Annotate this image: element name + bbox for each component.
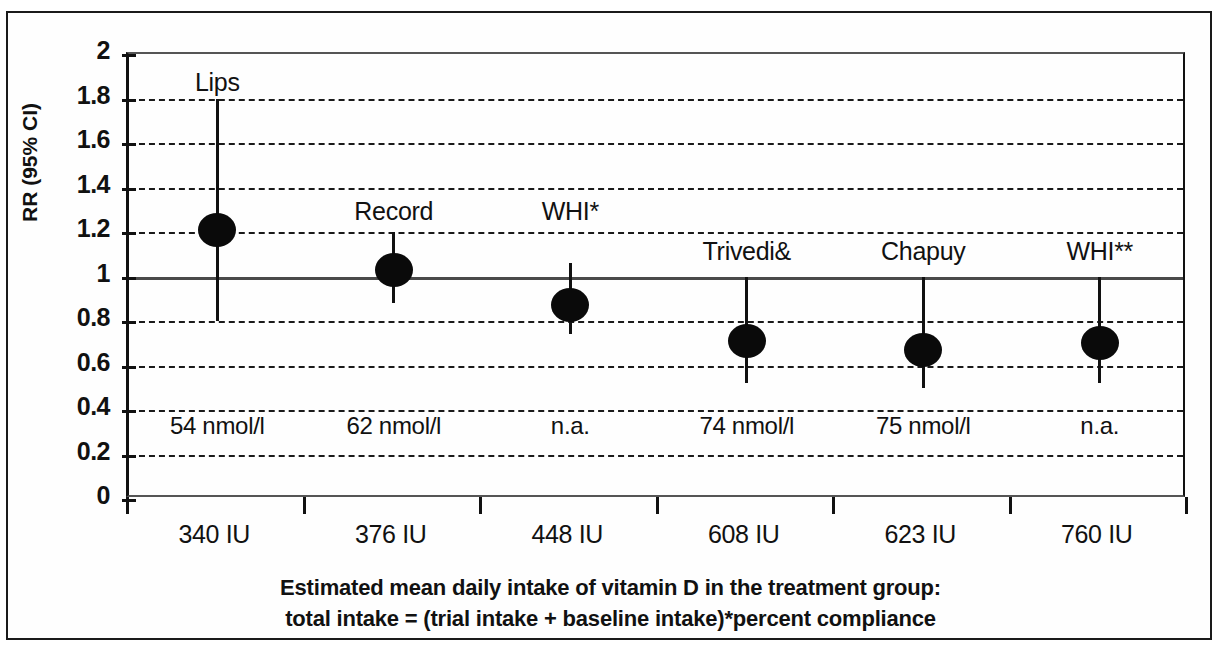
x-axis-tick-label: 340 IU: [179, 520, 250, 549]
plot-area: Lips54 nmol/lRecord62 nmol/lWHI*n.a.Triv…: [126, 52, 1185, 497]
x-axis-tick: [303, 497, 306, 514]
gridline: [129, 410, 1183, 412]
series-label: Chapuy: [881, 237, 965, 266]
y-axis-tick: [122, 455, 136, 458]
x-axis-tick-label: 448 IU: [532, 520, 603, 549]
x-axis-title-line-1: Estimated mean daily intake of vitamin D…: [0, 572, 1221, 603]
y-axis-tick: [122, 410, 136, 413]
gridline: [129, 143, 1183, 145]
y-axis-tick: [122, 54, 136, 57]
series-label: Trivedi&: [703, 237, 791, 266]
x-axis-tick-label: 608 IU: [708, 520, 779, 549]
series-note: 74 nmol/l: [699, 412, 794, 440]
y-axis-tick: [122, 321, 136, 324]
y-axis-tick: [122, 99, 136, 102]
x-axis-tick: [1009, 497, 1012, 514]
gridline: [129, 188, 1183, 190]
x-axis-tick-label: 376 IU: [355, 520, 426, 549]
data-point-marker: [904, 333, 942, 367]
x-axis-tick: [832, 497, 835, 514]
y-axis-tick-label: 0.2: [0, 437, 122, 466]
y-axis-tick-label: 1.4: [0, 170, 122, 199]
series-label: WHI**: [1066, 237, 1133, 266]
y-axis-tick-label: 1.2: [0, 214, 122, 243]
data-point-marker: [198, 213, 236, 247]
series-note: 54 nmol/l: [170, 412, 265, 440]
y-axis-tick: [122, 143, 136, 146]
x-axis-tick: [126, 497, 129, 514]
x-axis-tick-label: 760 IU: [1061, 520, 1132, 549]
series-note: n.a.: [551, 412, 590, 440]
x-axis-title-line-2: total intake = (trial intake + baseline …: [0, 603, 1221, 634]
x-axis-tick: [479, 497, 482, 514]
x-axis-tick: [656, 497, 659, 514]
y-axis-tick: [122, 499, 136, 502]
reference-line: [129, 277, 1183, 280]
gridline: [129, 232, 1183, 234]
x-axis-title: Estimated mean daily intake of vitamin D…: [0, 572, 1221, 634]
y-axis-tick-label: 0.8: [0, 303, 122, 332]
y-axis-tick: [122, 277, 136, 280]
y-axis-tick-label: 1.6: [0, 125, 122, 154]
series-label: Record: [354, 197, 433, 226]
data-point-marker: [551, 288, 589, 322]
data-point-marker: [728, 324, 766, 358]
y-axis-tick: [122, 232, 136, 235]
x-axis-tick-label: 623 IU: [885, 520, 956, 549]
y-axis-tick-label: 2: [0, 36, 122, 65]
series-note: 62 nmol/l: [346, 412, 441, 440]
y-axis-tick-label: 1: [0, 259, 122, 288]
y-axis-tick-label: 1.8: [0, 81, 122, 110]
data-point-marker: [1081, 326, 1119, 360]
series-label: WHI*: [542, 197, 599, 226]
y-axis-tick-label: 0.4: [0, 392, 122, 421]
series-label: Lips: [195, 68, 240, 97]
y-axis-tick: [122, 366, 136, 369]
confidence-interval-line: [216, 99, 219, 322]
gridline: [129, 321, 1183, 323]
x-axis-tick: [1185, 497, 1188, 514]
forest-plot-figure: RR (95% CI) 00.20.40.60.811.21.41.61.82 …: [0, 0, 1221, 648]
gridline: [129, 366, 1183, 368]
series-note: n.a.: [1080, 412, 1119, 440]
gridline: [129, 99, 1183, 101]
series-note: 75 nmol/l: [876, 412, 971, 440]
y-axis-tick-label: 0: [0, 481, 122, 510]
gridline: [129, 455, 1183, 457]
y-axis-tick: [122, 188, 136, 191]
data-point-marker: [375, 253, 413, 287]
y-axis-tick-label: 0.6: [0, 348, 122, 377]
